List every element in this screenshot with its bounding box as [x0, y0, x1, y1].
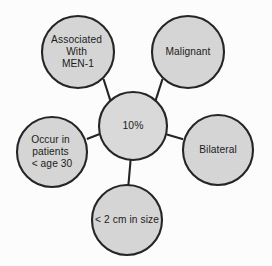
node-malignant[interactable]: Malignant	[152, 16, 224, 88]
node-label-center-hub: 10%	[123, 120, 144, 131]
node-label-malignant: Malignant	[165, 46, 210, 57]
node-bilateral[interactable]: Bilateral	[183, 115, 253, 185]
node-occur-in-patients-under-age-30[interactable]: Occur in patients < age 30	[17, 117, 87, 187]
connector-center-to-malignant	[155, 79, 162, 102]
connector-center-to-associated-with-men-1	[104, 79, 111, 102]
node-label-less-than-2-cm-in-size: < 2 cm in size	[95, 214, 159, 225]
node-center-hub[interactable]: 10%	[99, 92, 167, 160]
radial-diagram: Associated With MEN-1 Malignant Bilatera…	[0, 0, 272, 266]
node-associated-with-men-1[interactable]: Associated With MEN-1	[42, 16, 114, 88]
connector-center-to-bilateral	[167, 135, 183, 140]
connector-center-to-less-than-2-cm	[128, 160, 130, 185]
node-less-than-2-cm-in-size[interactable]: < 2 cm in size	[92, 185, 162, 255]
node-label-bilateral: Bilateral	[199, 144, 237, 155]
connector-center-to-occur-in-patients	[87, 134, 99, 139]
diagram-canvas: Associated With MEN-1 Malignant Bilatera…	[0, 0, 272, 266]
node-label-occur-in-patients-under-age-30: Occur in patients < age 30	[31, 133, 73, 169]
